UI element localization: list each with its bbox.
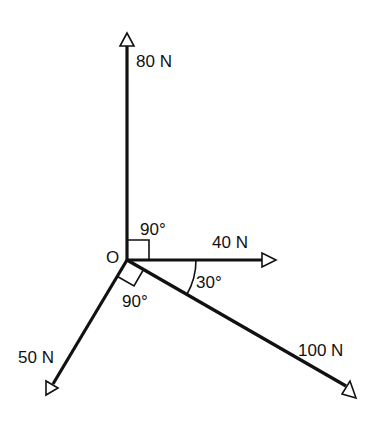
arrowhead-icon — [120, 33, 134, 46]
angle-arc-icon — [187, 260, 196, 295]
angle-label-90-top: 90° — [140, 220, 166, 239]
force-100n: 100 N — [127, 260, 356, 398]
force-diagram: 80 N 40 N 100 N 50 N O 90° 30° 90° — [0, 0, 381, 428]
right-angle-marker-icon — [127, 240, 149, 260]
origin-label: O — [106, 248, 119, 267]
force-50n-line — [53, 260, 127, 384]
angle-label-90-bottom: 90° — [122, 292, 148, 311]
force-100n-line — [127, 260, 346, 386]
arrowhead-icon — [262, 253, 276, 267]
force-40n-label: 40 N — [212, 233, 248, 252]
force-100n-label: 100 N — [298, 341, 343, 360]
angle-label-30: 30° — [196, 273, 222, 292]
force-50n-label: 50 N — [18, 348, 54, 367]
force-80n-label: 80 N — [136, 52, 172, 71]
force-50n: 50 N — [18, 260, 127, 395]
